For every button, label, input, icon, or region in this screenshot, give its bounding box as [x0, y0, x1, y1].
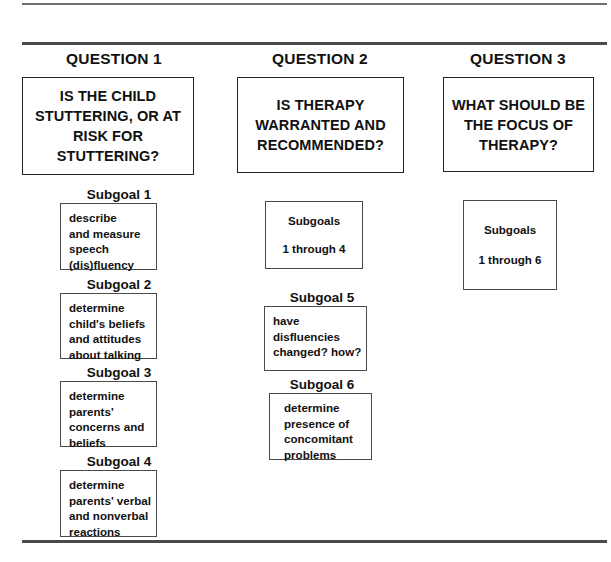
- question-column-2: QUESTION 2 IS THERAPY WARRANTED AND RECO…: [228, 50, 412, 460]
- subgoal-line: parents' verbal: [69, 493, 148, 509]
- subgoal-line: have: [273, 313, 358, 329]
- subgoal-line: and measure: [69, 226, 148, 242]
- question-line: STUTTERING?: [57, 148, 160, 164]
- subgoal-line: disfluencies: [273, 329, 358, 345]
- question-box-2: IS THERAPY WARRANTED AND RECOMMENDED?: [237, 77, 404, 173]
- subgoal-line: presence of: [284, 416, 363, 432]
- subgoal-line: about talking: [69, 347, 148, 363]
- question-line: IS THERAPY: [277, 97, 365, 113]
- subgoal-line: changed? how?: [273, 344, 358, 360]
- subgoal-label-5: Subgoal 5: [232, 289, 412, 306]
- question-line: WARRANTED: [255, 117, 350, 133]
- subgoals-group-line: 1 through 6: [478, 252, 541, 268]
- subgoals-group-line: 1 through 4: [282, 241, 345, 257]
- subgoal-box-5: have disfluencies changed? how?: [264, 306, 367, 371]
- subgoal-line: concerns and: [69, 419, 148, 435]
- subgoal-box-6: determine presence of concomitant proble…: [269, 393, 372, 460]
- subgoal-line: speech: [69, 241, 148, 257]
- question-line: STUTTERING, OR: [35, 108, 159, 124]
- subgoals-group-line: Subgoals: [484, 222, 536, 238]
- subgoal-line: concomitant: [284, 431, 363, 447]
- subgoal-line: determine: [69, 477, 148, 493]
- subgoal-box-2: determine child's beliefs and attitudes …: [60, 293, 157, 359]
- subgoal-label-1: Subgoal 1: [24, 186, 214, 203]
- subgoal-line: (dis)fluency: [69, 257, 148, 273]
- question-text-1: IS THE CHILD STUTTERING, OR AT RISK FOR …: [27, 86, 189, 166]
- subgoal-box-3: determine parents' concerns and beliefs: [60, 381, 157, 447]
- subgoal-line: beliefs: [69, 435, 148, 451]
- subgoal-line: and attitudes: [69, 331, 148, 347]
- question-line: AND: [354, 117, 386, 133]
- question-line: IS THE CHILD: [60, 88, 156, 104]
- subgoal-line: reactions: [69, 524, 148, 540]
- subgoal-label-6: Subgoal 6: [232, 376, 412, 393]
- question-column-3: QUESTION 3 WHAT SHOULD BE THE FOCUS OF T…: [428, 50, 608, 290]
- column-title-question-2: QUESTION 2: [228, 50, 412, 68]
- question-text-3: WHAT SHOULD BE THE FOCUS OF THERAPY?: [448, 95, 589, 155]
- subgoal-line: determine: [69, 388, 148, 404]
- subgoal-box-1: describe and measure speech (dis)fluency: [60, 203, 157, 270]
- subgoal-line: problems: [284, 447, 363, 463]
- divider-bottom: [22, 540, 607, 543]
- question-column-1: QUESTION 1 IS THE CHILD STUTTERING, OR A…: [14, 50, 214, 537]
- subgoals-group-line: Subgoals: [288, 213, 340, 229]
- column-title-question-3: QUESTION 3: [428, 50, 608, 68]
- subgoal-line: child's beliefs: [69, 316, 148, 332]
- subgoal-box-4: determine parents' verbal and nonverbal …: [60, 470, 157, 537]
- subgoal-label-3: Subgoal 3: [24, 364, 214, 381]
- subgoals-group-box-2: Subgoals 1 through 4: [265, 201, 363, 269]
- subgoal-line: parents': [69, 404, 148, 420]
- subgoal-label-2: Subgoal 2: [24, 276, 214, 293]
- question-box-3: WHAT SHOULD BE THE FOCUS OF THERAPY?: [443, 77, 594, 172]
- subgoal-line: determine: [69, 300, 148, 316]
- question-box-1: IS THE CHILD STUTTERING, OR AT RISK FOR …: [22, 77, 194, 175]
- question-line: RECOMMENDED?: [257, 137, 384, 153]
- subgoal-line: and nonverbal: [69, 508, 148, 524]
- subgoals-group-box-3: Subgoals 1 through 6: [463, 200, 557, 290]
- question-text-2: IS THERAPY WARRANTED AND RECOMMENDED?: [242, 95, 399, 155]
- question-line: WHAT SHOULD: [452, 97, 561, 113]
- column-title-question-1: QUESTION 1: [14, 50, 214, 68]
- subgoal-line: describe: [69, 210, 148, 226]
- subgoal-line: determine: [284, 400, 363, 416]
- divider-header: [22, 42, 607, 45]
- divider-top: [22, 3, 607, 5]
- subgoal-label-4: Subgoal 4: [24, 453, 214, 470]
